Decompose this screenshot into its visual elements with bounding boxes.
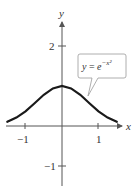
x-tick-label-neg1: −1 [17, 133, 29, 145]
x-axis-label: x [125, 120, 131, 132]
y-tick-label-2: 2 [49, 40, 55, 52]
chart-canvas: y x −1 1 2 −1 y = e−x² [0, 0, 138, 192]
y-axis-label: y [58, 7, 64, 19]
y-tick-label-neg1: −1 [44, 160, 56, 172]
x-tick-label-1: 1 [96, 133, 102, 145]
